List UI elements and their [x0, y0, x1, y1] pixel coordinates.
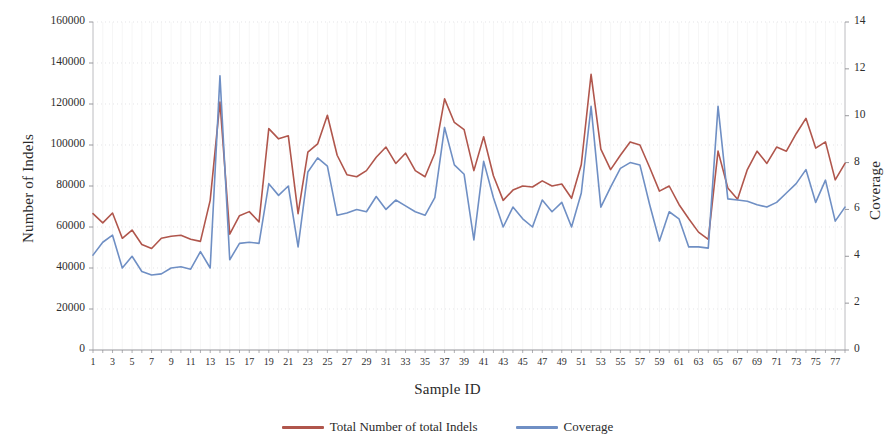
y-axis-left-tick-label: 80000 [0, 178, 85, 190]
y-axis-left-tick-label: 100000 [0, 137, 85, 149]
y-axis-right-tick-label: 10 [854, 108, 866, 120]
legend-swatch-icon [516, 426, 558, 429]
y-axis-left-tick-label: 20000 [0, 301, 85, 313]
chart-legend: Total Number of total IndelsCoverage [0, 419, 895, 435]
y-axis-right-tick-label: 8 [854, 155, 860, 167]
legend-swatch-icon [282, 426, 324, 429]
y-axis-right-title: Coverage [867, 116, 884, 266]
legend-label: Total Number of total Indels [330, 419, 478, 435]
y-axis-right-tick-label: 12 [854, 61, 866, 73]
y-axis-left-tick-label: 120000 [0, 96, 85, 108]
y-axis-left-tick-label: 0 [0, 342, 85, 354]
legend-item[interactable]: Total Number of total Indels [282, 419, 478, 435]
legend-label: Coverage [564, 419, 614, 435]
y-axis-left-tick-label: 160000 [0, 14, 85, 26]
series-line-2 [93, 76, 845, 275]
y-axis-left-tick-label: 60000 [0, 219, 85, 231]
chart-figure: Number of Indels Coverage Sample ID 0200… [0, 0, 895, 441]
plot-area [0, 0, 895, 441]
y-axis-right-tick-label: 4 [854, 248, 860, 260]
x-axis-title: Sample ID [0, 381, 895, 398]
y-axis-right-tick-label: 2 [854, 295, 860, 307]
legend-item[interactable]: Coverage [516, 419, 614, 435]
y-axis-right-tick-label: 0 [854, 342, 860, 354]
y-axis-left-tick-label: 140000 [0, 55, 85, 67]
y-axis-right-tick-label: 14 [854, 14, 866, 26]
y-axis-left-tick-label: 40000 [0, 260, 85, 272]
series-line-1 [93, 74, 845, 248]
y-axis-right-tick-label: 6 [854, 201, 860, 213]
x-axis-tick-label: 77 [823, 356, 847, 367]
